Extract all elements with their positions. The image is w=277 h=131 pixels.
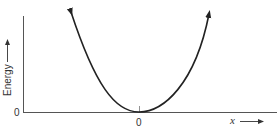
- x-origin-label: 0: [136, 117, 142, 128]
- y-axis-label: Energy: [2, 64, 13, 96]
- y-origin-label: 0: [14, 107, 20, 118]
- energy-parabola-chart: Energy 0 0 x: [0, 0, 277, 131]
- svg-text:Energy: Energy: [2, 64, 13, 96]
- energy-curve: [71, 12, 209, 112]
- x-axis-label: x: [229, 114, 235, 126]
